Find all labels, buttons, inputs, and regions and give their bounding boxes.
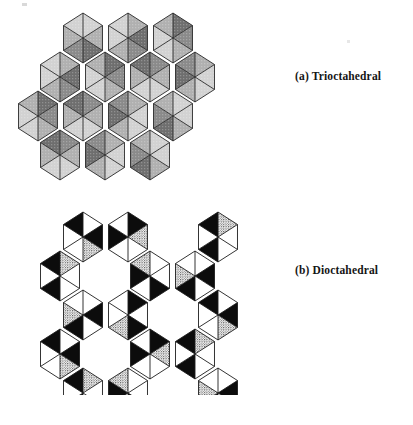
figure-trioctahedral xyxy=(0,0,260,200)
figure-dioctahedral xyxy=(0,195,260,395)
caption-dioctahedral: (b) Dioctahedral xyxy=(295,264,378,276)
trioctahedral-diagram xyxy=(0,0,260,200)
figure-page: (a) Trioctahedral (b) Dioctahedral xyxy=(0,0,413,425)
scan-artifact-speck xyxy=(347,40,350,43)
dioctahedral-diagram xyxy=(0,195,260,395)
caption-trioctahedral: (a) Trioctahedral xyxy=(295,70,381,82)
